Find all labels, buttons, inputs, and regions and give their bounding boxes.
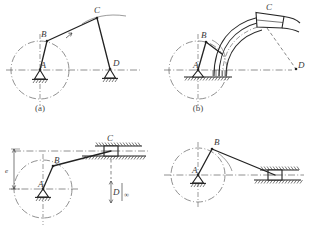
joint-label-a-d: A [191,165,198,175]
link-ab-b [198,42,206,70]
link-bc-a [47,18,97,41]
joint-label-d-c: D [112,187,120,197]
joint-dot-c-a [96,17,99,20]
caption-b: (b) [120,103,276,113]
joint-label-a-b: A [192,60,199,70]
panel-c-offset-slider-crank: A B C D ∞ e (c) [0,121,156,242]
joint-label-b-a: B [41,29,47,39]
curved-guide-foot-b [213,70,225,76]
joint-label-b-b: B [201,30,207,40]
joint-label-c-b: C [266,2,273,12]
joint-label-a-c: A [37,179,44,189]
joint-dot-b-c [52,165,55,168]
figure-kinematic-linkages: A B C D (a) [0,0,312,242]
joint-label-a-a: A [40,60,47,70]
infinity-symbol-c: ∞ [124,191,129,199]
link-ab-d [198,149,212,175]
pivot-support-d-a [105,69,116,78]
panel-d-inline-slider-crank: A B (d) [156,121,312,242]
joint-label-b-d: B [214,137,220,147]
curved-guide-inner-b [226,30,262,76]
dimension-label-e-c: e [5,167,8,175]
caption-a: (a) [0,103,118,113]
panel-b-curved-slider-mechanism: A B C D (b) [156,0,312,121]
joint-label-d-a: D [112,58,120,68]
link-ab-c [43,166,53,189]
coupler-arc-path-a [82,15,126,24]
link-cd-a [97,18,110,69]
radius-line-cd-b [267,28,296,69]
joint-dot-d-a [109,68,112,71]
joint-label-c-a: C [94,5,101,15]
curved-guide-mid-b [219,22,260,76]
guide-extension-top-b [284,17,300,24]
joint-dot-b-d [211,148,214,151]
joint-label-b-c: B [54,155,60,165]
joint-label-d-b: D [297,60,305,70]
link-bc-c [53,151,111,166]
joint-label-c-c: C [107,133,114,143]
joint-dot-b-b [205,41,208,44]
joint-dot-d-b [295,68,298,71]
joint-dot-b-a [46,40,49,43]
guide-extension-bottom-b [282,28,299,32]
